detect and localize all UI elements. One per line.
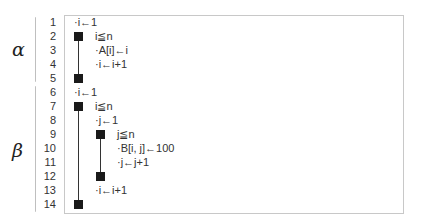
code-line-3: ·A[i]←i [95,44,128,56]
code-line-1: ·i←1 [74,16,97,28]
line-number: 3 [32,44,56,56]
loop-line [78,38,79,76]
line-number: 8 [32,114,56,126]
line-number: 1 [32,16,56,28]
loop-end-marker [74,200,83,209]
code-line-7: i≦n [95,100,113,113]
code-line-9: j≦n [117,128,135,141]
loop-start-marker [74,32,83,41]
line-number: 5 [32,72,56,84]
loop-end-marker [96,172,105,181]
line-number: 9 [32,128,56,140]
loop-line [100,136,101,174]
line-number: 6 [32,86,56,98]
line-number: 14 [32,198,56,210]
alpha-label: α [12,38,25,60]
loop-end-marker [74,74,83,83]
loop-start-marker [74,102,83,111]
line-number: 11 [32,156,56,168]
code-line-6: ·i←1 [74,86,97,98]
code-line-13: ·i←i+1 [95,184,127,196]
beta-label: β [12,139,23,161]
code-line-8: ·j←1 [95,114,118,126]
loop-line [78,108,79,202]
code-line-10: ·B[i, j]←100 [117,142,174,154]
line-number: 10 [32,142,56,154]
loop-start-marker [96,130,105,139]
code-line-4: ·i←i+1 [95,58,127,70]
code-line-11: ·j←j+1 [117,156,149,168]
line-number: 7 [32,100,56,112]
line-number: 12 [32,170,56,182]
code-line-2: i≦n [95,30,113,43]
line-number: 13 [32,184,56,196]
line-number: 2 [32,30,56,42]
line-number: 4 [32,58,56,70]
